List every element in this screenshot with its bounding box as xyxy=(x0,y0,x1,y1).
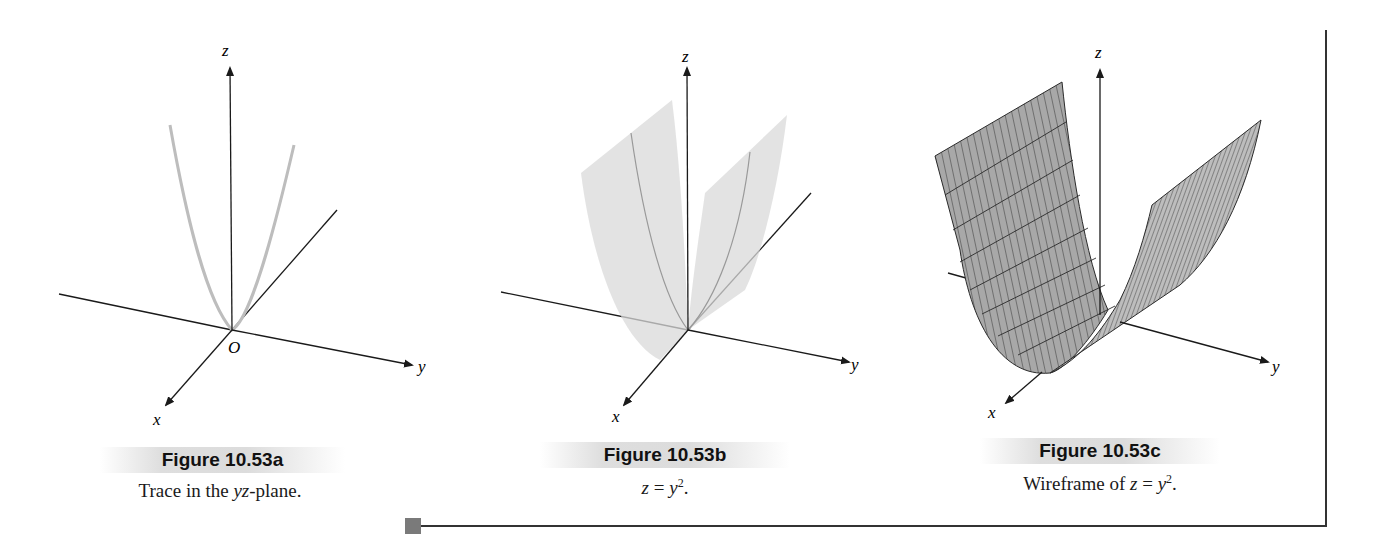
figure-caption: Wireframe of z = y2. xyxy=(960,472,1240,495)
z-axis xyxy=(230,68,232,330)
y-axis-label: y xyxy=(849,355,859,374)
y-axis-label: y xyxy=(416,357,426,376)
z-axis-label: z xyxy=(1094,43,1102,62)
frame-corner-marker xyxy=(405,518,421,534)
origin-label: O xyxy=(228,338,240,357)
x-axis xyxy=(1006,372,1042,403)
z-axis-label: z xyxy=(221,41,229,60)
x-axis xyxy=(166,330,232,405)
z-axis xyxy=(687,68,688,330)
x-axis-label: x xyxy=(611,407,620,426)
frame-right-rule xyxy=(1325,30,1327,527)
figure-10-53b: z y x Figure 10.53b z = y2. xyxy=(460,0,880,554)
figure-10-53a: z y x O Figure 10.53a Trace in the yz-pl… xyxy=(0,0,460,554)
wireframe-diagram: z y x xyxy=(880,0,1325,430)
y-axis xyxy=(688,330,849,362)
figure-10-53c: z y x Figure 10.53c Wireframe of z = y2. xyxy=(880,0,1325,554)
figure-title: Figure 10.53b xyxy=(540,442,790,468)
y-axis xyxy=(1120,322,1268,362)
figure-title: Figure 10.53a xyxy=(100,447,345,473)
y-axis-negative xyxy=(59,294,232,330)
figure-title: Figure 10.53c xyxy=(980,438,1220,464)
y-axis xyxy=(232,330,412,365)
surface-diagram: z y x xyxy=(460,0,880,430)
trace-diagram: z y x O xyxy=(0,0,460,430)
figure-caption: z = y2. xyxy=(540,476,790,499)
z-axis-label: z xyxy=(681,47,689,66)
y-axis-label: y xyxy=(1270,357,1280,376)
figure-caption: Trace in the yz-plane. xyxy=(90,480,350,502)
x-axis-label: x xyxy=(152,410,161,429)
x-axis-label: x xyxy=(987,403,996,422)
frame-bottom-rule xyxy=(416,525,1327,527)
surface-left-sheet xyxy=(581,100,688,360)
x-axis-negative xyxy=(232,210,337,330)
